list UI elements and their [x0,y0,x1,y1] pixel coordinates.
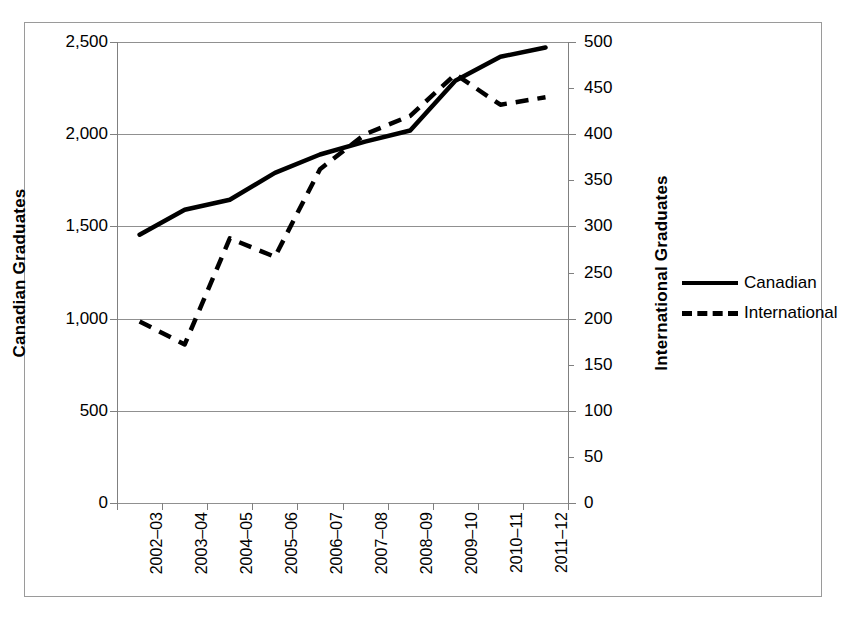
right-axis-title: International Graduates [648,42,676,503]
series-line-canadian [140,48,546,235]
legend-item-canadian: Canadian [682,268,832,298]
legend-label-canadian: Canadian [744,273,817,293]
legend-swatch-solid-icon [682,281,738,285]
legend: Canadian International [682,268,832,328]
left-axis-title-text: Canadian Graduates [10,188,30,357]
chart-figure: 05001,0001,5002,0002,500 050100150200250… [0,0,846,619]
legend-label-international: International [744,303,838,323]
series-line-international [140,74,546,344]
right-axis-title-text: International Graduates [652,175,672,370]
legend-swatch-dashed-icon [682,311,738,316]
left-axis-title: Canadian Graduates [6,42,34,503]
legend-item-international: International [682,298,832,328]
